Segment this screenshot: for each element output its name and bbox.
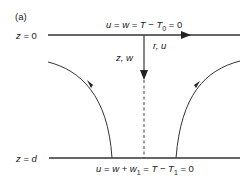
right-streamline (176, 61, 240, 158)
top-boundary-condition: u = w = T − T0 = 0 (106, 20, 182, 32)
vertical-axis-label: z, w (116, 53, 133, 63)
left-streamline (48, 62, 112, 158)
bottom-boundary-condition: u = w + w1 = T − T1 = 0 (96, 164, 194, 176)
panel-label: (a) (15, 12, 27, 22)
bottom-z-label: z = d (16, 154, 37, 164)
radial-axis-label: r, u (153, 41, 166, 51)
z-axis-arrow-icon (140, 70, 148, 80)
top-z-label: z = 0 (16, 31, 37, 41)
r-axis-arrow-icon (181, 31, 191, 39)
